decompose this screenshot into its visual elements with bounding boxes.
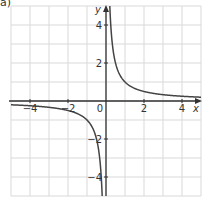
origin-label: 0 [97, 103, 103, 114]
x-axis-label: x [192, 103, 199, 114]
y-tick-label: 4 [96, 20, 102, 31]
y-tick-label: −4 [87, 172, 102, 183]
x-tick-label: −4 [23, 103, 38, 114]
curve-branch-positive [110, 6, 201, 97]
x-tick-label: −2 [61, 103, 76, 114]
hyperbola-chart: −4−224042−2−4xy [0, 0, 202, 198]
y-axis-label: y [94, 4, 102, 15]
x-tick-label: 2 [141, 103, 147, 114]
axes [9, 5, 202, 196]
y-tick-label: 2 [96, 58, 102, 69]
y-tick-label: −2 [87, 134, 102, 145]
x-tick-label: 4 [179, 103, 185, 114]
